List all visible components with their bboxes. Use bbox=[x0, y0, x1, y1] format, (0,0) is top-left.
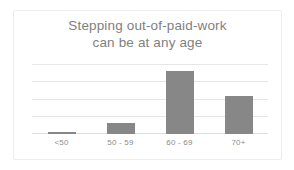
chart-title: Stepping out-of-paid-work can be at any … bbox=[14, 17, 281, 51]
bar-under-50[interactable] bbox=[48, 132, 76, 134]
bar-70-plus[interactable] bbox=[225, 96, 253, 134]
bar-50-59[interactable] bbox=[107, 123, 135, 134]
bar-slot-under-50 bbox=[32, 64, 91, 134]
bar-slot-70-plus bbox=[209, 64, 268, 134]
x-label-60-69: 60 - 69 bbox=[150, 138, 209, 147]
x-label-70-plus: 70+ bbox=[209, 138, 268, 147]
x-label-50-59: 50 - 59 bbox=[91, 138, 150, 147]
bar-slot-60-69 bbox=[150, 64, 209, 134]
bar-group bbox=[32, 64, 268, 134]
bar-60-69[interactable] bbox=[166, 71, 194, 134]
x-axis-labels: <50 50 - 59 60 - 69 70+ bbox=[32, 138, 268, 147]
plot-area bbox=[32, 64, 268, 134]
bar-slot-50-59 bbox=[91, 64, 150, 134]
x-label-under-50: <50 bbox=[32, 138, 91, 147]
chart-card: Stepping out-of-paid-work can be at any … bbox=[13, 10, 282, 160]
